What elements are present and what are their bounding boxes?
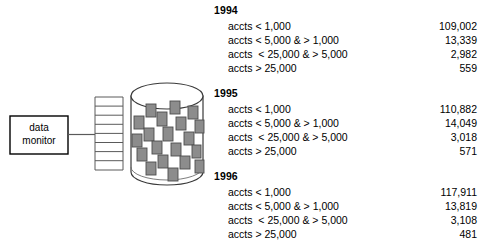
account-row: accts < 1,000 117,911 [212, 186, 485, 200]
document-rect [195, 160, 204, 173]
year-heading: 1996 [214, 170, 238, 182]
account-row-value: 110,882 [440, 103, 477, 115]
account-row-value: 13,819 [445, 200, 477, 212]
record-ladder [95, 97, 123, 170]
cylinder-top [131, 83, 203, 109]
account-row-label: accts > 25,000 [228, 145, 297, 157]
account-row: accts < 5,000 & > 1,000 13,339 [212, 34, 485, 48]
document-rect [163, 127, 173, 141]
account-row: accts < 25,000 & > 5,000 3,018 [212, 131, 485, 145]
account-row-label: accts > 25,000 [228, 228, 297, 240]
data-monitor-diagram: data monitor [0, 0, 212, 252]
account-row-value: 14,049 [445, 117, 477, 129]
year-heading: 1995 [214, 87, 238, 99]
account-row-label: accts < 5,000 & > 1,000 [228, 117, 339, 129]
data-monitor-label-line1: data [29, 122, 49, 133]
account-row: accts > 25,000 559 [212, 62, 485, 76]
document-rect [134, 116, 144, 129]
account-row-value: 13,339 [445, 34, 477, 46]
account-row-label: accts < 25,000 & > 5,000 [228, 131, 348, 143]
account-row-label: accts < 5,000 & > 1,000 [228, 34, 339, 46]
document-rect [176, 117, 186, 130]
account-row-label: accts < 25,000 & > 5,000 [228, 214, 348, 226]
document-rect [192, 145, 201, 158]
database-cylinder-icon [131, 83, 204, 185]
account-row: accts < 25,000 & > 5,000 2,982 [212, 48, 485, 62]
account-row-label: accts < 5,000 & > 1,000 [228, 200, 339, 212]
account-row: accts > 25,000 571 [212, 145, 485, 159]
account-row-label: accts > 25,000 [228, 62, 297, 74]
account-row-value: 3,108 [451, 214, 477, 226]
document-rect [144, 128, 154, 141]
account-row-value: 481 [459, 228, 477, 240]
account-row-value: 117,911 [441, 186, 477, 198]
document-rect [157, 112, 167, 126]
account-row: accts < 1,000 109,002 [212, 20, 485, 34]
account-row-value: 571 [459, 145, 477, 157]
diagram-canvas: data monitor [0, 0, 212, 252]
document-rect [132, 134, 142, 147]
account-row-value: 3,018 [451, 131, 477, 143]
document-rect [168, 168, 178, 181]
year-heading: 1994 [214, 4, 238, 16]
account-row-value: 2,982 [451, 48, 477, 60]
account-row-label: accts < 1,000 [228, 20, 291, 32]
account-row-label: accts < 1,000 [228, 103, 291, 115]
document-rect [158, 155, 168, 168]
account-row-value: 559 [459, 62, 477, 74]
document-rect [170, 101, 180, 114]
account-row: accts < 25,000 & > 5,000 3,108 [212, 214, 485, 228]
document-rect [146, 162, 156, 175]
account-row: accts < 5,000 & > 1,000 14,049 [212, 117, 485, 131]
document-rect [180, 156, 190, 169]
account-row-label: accts < 1,000 [228, 186, 291, 198]
document-rect [195, 120, 204, 133]
account-row-label: accts < 25,000 & > 5,000 [228, 48, 348, 60]
document-rect [184, 132, 194, 145]
document-rect [146, 104, 156, 117]
document-rect [188, 106, 198, 119]
account-row: accts < 1,000 110,882 [212, 103, 485, 117]
account-row-value: 109,002 [439, 20, 477, 32]
data-monitor-box: data monitor [10, 116, 68, 154]
document-rect [137, 148, 147, 161]
account-row: accts < 5,000 & > 1,000 13,819 [212, 200, 485, 214]
data-monitor-label-line2: monitor [22, 135, 56, 146]
account-row: accts > 25,000 481 [212, 228, 485, 242]
account-summary-panel: 1994 accts < 1,000 109,002 accts < 5,000… [212, 0, 485, 252]
document-rect [152, 141, 162, 154]
document-rect [171, 143, 181, 156]
